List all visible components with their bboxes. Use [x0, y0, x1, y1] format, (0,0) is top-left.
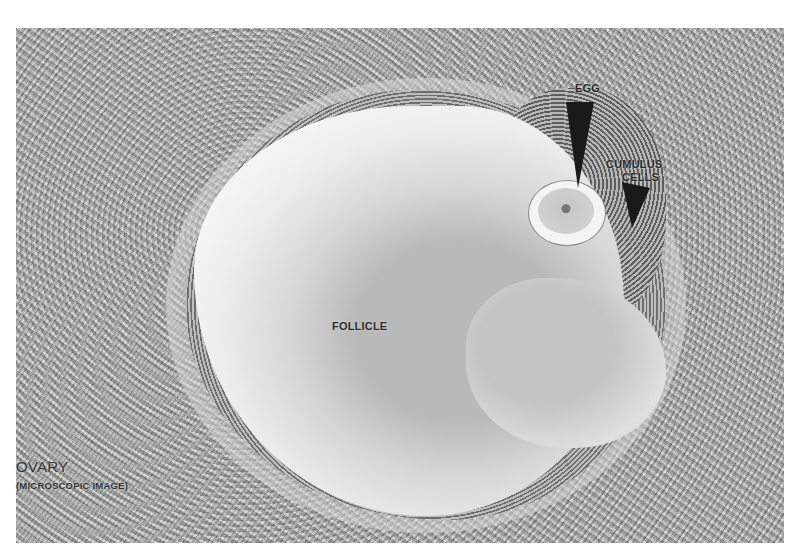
egg-pointer-arrow-icon	[560, 100, 600, 190]
egg-cell	[538, 188, 594, 234]
cumulus-label-line2: CELLS	[606, 171, 662, 184]
cumulus-pointer-arrow-icon	[622, 180, 652, 230]
ovary-micrograph	[16, 28, 784, 543]
cumulus-label-line1: CUMULUS	[606, 158, 662, 171]
cumulus-cells-label: CUMULUS CELLS	[606, 158, 662, 184]
image-subtitle: (MICROSCOPIC IMAGE)	[16, 480, 128, 491]
egg-label: EGG	[575, 82, 600, 94]
follicle-label: FOLLICLE	[332, 320, 387, 332]
image-title: OVARY	[16, 458, 68, 475]
